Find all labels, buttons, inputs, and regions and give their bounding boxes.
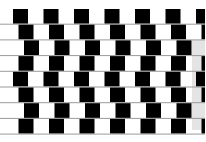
cafe-wall-illusion xyxy=(0,0,205,142)
black-tile xyxy=(171,25,186,40)
black-tile xyxy=(19,88,34,103)
black-tile xyxy=(44,72,59,87)
black-tile xyxy=(141,56,156,71)
black-tile xyxy=(55,103,70,118)
black-tile xyxy=(202,25,206,40)
black-tile xyxy=(74,72,89,87)
black-tile xyxy=(171,56,186,71)
black-tile xyxy=(19,119,34,134)
black-tile xyxy=(85,40,100,55)
black-tile xyxy=(171,119,186,134)
black-tile xyxy=(74,9,89,24)
black-tile xyxy=(105,9,120,24)
black-tile xyxy=(80,88,95,103)
black-tile xyxy=(49,88,64,103)
black-tile xyxy=(135,72,150,87)
black-tile xyxy=(166,72,181,87)
black-tile xyxy=(49,56,64,71)
black-tile xyxy=(177,40,192,55)
black-tile xyxy=(80,119,95,134)
black-tile xyxy=(13,72,28,87)
black-tile xyxy=(166,9,181,24)
black-tile xyxy=(116,40,131,55)
black-tile xyxy=(110,119,125,134)
black-tile xyxy=(80,25,95,40)
black-tile xyxy=(141,88,156,103)
black-tile xyxy=(116,103,131,118)
black-tile xyxy=(110,56,125,71)
black-tile xyxy=(141,25,156,40)
black-tile xyxy=(105,72,120,87)
black-tile xyxy=(49,119,64,134)
black-tile xyxy=(19,56,34,71)
black-tile xyxy=(146,40,161,55)
black-tile xyxy=(202,119,206,134)
black-tile xyxy=(177,103,192,118)
black-tile xyxy=(202,56,206,71)
black-tile xyxy=(196,9,205,24)
black-tile xyxy=(196,72,205,87)
black-tile xyxy=(110,88,125,103)
black-tile xyxy=(49,25,64,40)
black-tile xyxy=(13,9,28,24)
black-tile xyxy=(146,103,161,118)
black-tile xyxy=(80,56,95,71)
black-tile xyxy=(141,119,156,134)
black-tile xyxy=(24,103,39,118)
black-tile xyxy=(24,40,39,55)
black-tile xyxy=(171,88,186,103)
black-tile xyxy=(44,9,59,24)
black-tile xyxy=(55,40,70,55)
black-tile xyxy=(85,103,100,118)
black-tile xyxy=(110,25,125,40)
black-tile xyxy=(19,25,34,40)
black-tile xyxy=(202,88,206,103)
black-tile xyxy=(135,9,150,24)
